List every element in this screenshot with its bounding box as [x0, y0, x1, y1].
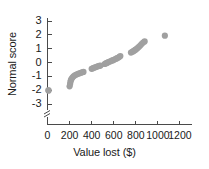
data-points-group	[45, 33, 168, 94]
y-tick-label: 3	[20, 14, 42, 26]
data-point	[80, 69, 86, 75]
y-tick-label: 2	[20, 28, 42, 40]
data-point	[117, 53, 123, 59]
axes-group	[48, 18, 192, 125]
y-tick-label: -3	[20, 97, 42, 109]
y-axis-break-icon	[44, 111, 50, 118]
axis-break-zigzag	[44, 111, 50, 118]
y-tick-label: -2	[20, 83, 42, 95]
y-tick-label: -1	[20, 69, 42, 81]
data-point	[162, 33, 168, 39]
y-tick-label: 1	[20, 42, 42, 54]
x-tick-label: 1200	[165, 129, 195, 141]
data-point	[46, 87, 52, 93]
data-point	[142, 38, 148, 44]
y-tick-label: 0	[20, 56, 42, 68]
normal-probability-plot: Normal score Value lost ($) 3210-1-2-3 0…	[0, 0, 209, 169]
